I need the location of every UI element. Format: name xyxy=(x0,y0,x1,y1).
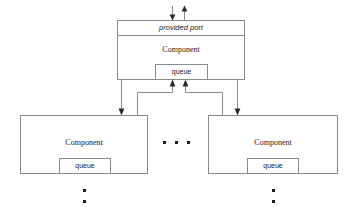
ellipsis-dot-h1 xyxy=(163,141,166,144)
outgoing-port-arrow-head xyxy=(182,6,188,12)
component-diagram: provided port Component queue Component … xyxy=(0,0,355,213)
ellipsis-dot-h3 xyxy=(187,141,190,144)
right-queue-label: queue xyxy=(247,162,299,169)
left-queue-label: queue xyxy=(59,162,111,169)
left-component-label: Component xyxy=(20,139,148,147)
connector-left-up-arrow-head xyxy=(170,80,176,87)
top-component-label: Component xyxy=(117,46,245,54)
top-queue-label: queue xyxy=(155,68,208,75)
provided-port-label: provided port xyxy=(117,24,245,32)
ellipsis-dot-left-v1 xyxy=(83,189,86,192)
incoming-port-arrow-head xyxy=(170,15,176,21)
connector-right-down-arrow-head xyxy=(235,109,241,116)
connector-right-up-path xyxy=(186,84,223,116)
connector-left-down-arrow-head xyxy=(119,109,125,116)
ellipsis-dot-right-v1 xyxy=(272,189,275,192)
connector-right-up-arrow-head xyxy=(183,80,189,87)
ellipsis-dot-h2 xyxy=(175,141,178,144)
ellipsis-dot-left-v2 xyxy=(83,200,86,203)
connector-left-up-path xyxy=(138,84,173,116)
right-component-label: Component xyxy=(208,139,338,147)
ellipsis-dot-right-v2 xyxy=(272,200,275,203)
